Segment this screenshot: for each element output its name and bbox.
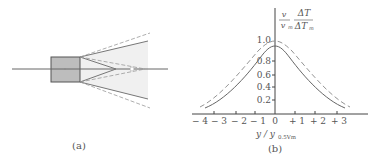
y-tick-0-2: 0.2	[257, 95, 271, 105]
x-tick-pos1: + 1	[289, 116, 305, 126]
x-tick-neg2: − 2	[231, 116, 247, 126]
x-tick-pos2: + 2	[310, 116, 326, 126]
x-tick-neg4: − 4	[192, 116, 208, 126]
core-tip-marker	[130, 67, 134, 71]
svg-text:0.5Vm: 0.5Vm	[278, 134, 297, 140]
panel-a-jet-diagram	[12, 33, 168, 108]
svg-text:m: m	[309, 25, 314, 31]
svg-text:ΔT: ΔT	[294, 21, 308, 31]
x-tick-neg3: − 3	[211, 116, 227, 126]
y-label-temperature: ΔT ΔT m	[294, 8, 314, 31]
x-axis-label: y / y 0.5Vm	[255, 129, 297, 140]
svg-text:ΔT: ΔT	[297, 8, 311, 18]
svg-text:v: v	[281, 21, 286, 30]
figure-canvas: (a) 1.0 0.8 0.6 0.4 0.2 − 4 − 3 − 2 − 1	[0, 0, 377, 164]
y-label-velocity: v v m	[279, 10, 293, 30]
y-tick-0-4: 0.4	[257, 82, 272, 92]
x-tick-neg1: − 1	[250, 116, 266, 126]
y-tick-1-0: 1.0	[257, 35, 272, 45]
y-tick-0-8: 0.8	[257, 56, 272, 66]
nozzle-center-dot	[64, 68, 66, 70]
panel-a-caption: (a)	[72, 140, 86, 151]
x-tick-pos3: + 3	[331, 116, 347, 126]
panel-b-chart: 1.0 0.8 0.6 0.4 0.2 − 4 − 3 − 2 − 1 0 + …	[192, 8, 368, 140]
x-tick-0: 0	[272, 116, 278, 126]
y-tick-0-6: 0.6	[257, 70, 272, 80]
svg-text:y / y: y / y	[255, 129, 276, 139]
svg-text:v: v	[282, 10, 287, 19]
panel-b-caption: (b)	[268, 143, 282, 154]
svg-text:m: m	[288, 24, 293, 30]
